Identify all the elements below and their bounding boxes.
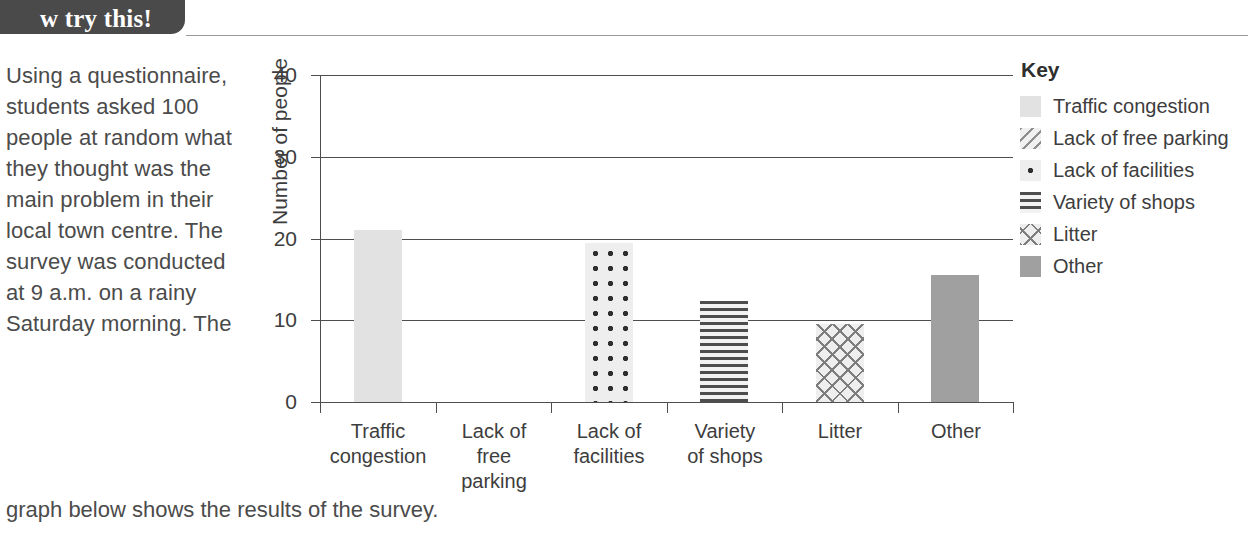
y-axis-tick: 0 bbox=[311, 402, 320, 403]
x-axis-category-label: Other bbox=[898, 419, 1014, 444]
gridline bbox=[320, 320, 1013, 321]
legend-item: Lack of facilities bbox=[1020, 154, 1248, 186]
bar bbox=[931, 275, 979, 402]
gridline bbox=[320, 239, 1013, 240]
x-axis-tick bbox=[898, 403, 899, 413]
legend-swatch-icon bbox=[1020, 128, 1041, 149]
y-axis-tick: 30 bbox=[311, 157, 320, 158]
x-axis-category-line: Traffic bbox=[320, 419, 436, 444]
x-axis-category-label: Lack offreeparking bbox=[436, 419, 552, 494]
legend-item-label: Variety of shops bbox=[1053, 191, 1195, 214]
legend-swatch-icon bbox=[1020, 192, 1041, 213]
x-axis-category-line: parking bbox=[436, 469, 552, 494]
legend-swatch-icon bbox=[1020, 224, 1041, 245]
x-axis-category-label: Trafficcongestion bbox=[320, 419, 436, 469]
y-axis-tick: 40 bbox=[311, 75, 320, 76]
x-axis-category-line: Variety bbox=[667, 419, 783, 444]
legend-item-label: Other bbox=[1053, 255, 1103, 278]
x-axis-category-line: Lack of bbox=[551, 419, 667, 444]
legend-swatch-icon bbox=[1020, 96, 1041, 117]
question-text-continued: graph below shows the results of the sur… bbox=[6, 494, 626, 525]
x-axis-category-line: free bbox=[436, 444, 552, 469]
legend: Key Traffic congestionLack of free parki… bbox=[1020, 58, 1248, 282]
legend-swatch-icon bbox=[1020, 256, 1041, 277]
legend-item-label: Traffic congestion bbox=[1053, 95, 1210, 118]
x-axis-category-line: of shops bbox=[667, 444, 783, 469]
legend-swatch-icon bbox=[1020, 160, 1041, 181]
legend-item: Traffic congestion bbox=[1020, 90, 1248, 122]
x-axis-category-line: facilities bbox=[551, 444, 667, 469]
y-axis-tick-label: 40 bbox=[274, 63, 297, 87]
bar bbox=[816, 324, 864, 402]
x-axis-category-line: Litter bbox=[782, 419, 898, 444]
x-axis-category-line: congestion bbox=[320, 444, 436, 469]
x-axis-tick bbox=[436, 403, 437, 413]
x-axis-tick bbox=[1013, 403, 1014, 413]
bar-chart: Number of people 010203040 Trafficconges… bbox=[240, 55, 1030, 475]
y-axis-tick-label: 30 bbox=[274, 145, 297, 169]
header-tab-label: w try this! bbox=[40, 4, 220, 34]
legend-item-label: Lack of free parking bbox=[1053, 127, 1229, 150]
question-text: Using a questionnaire, students asked 10… bbox=[6, 60, 238, 339]
legend-item-label: Litter bbox=[1053, 223, 1097, 246]
x-axis-tick bbox=[551, 403, 552, 413]
x-axis-category-label: Lack offacilities bbox=[551, 419, 667, 469]
bar bbox=[585, 243, 633, 402]
x-axis-category-label: Litter bbox=[782, 419, 898, 444]
x-axis-category-line: Lack of bbox=[436, 419, 552, 444]
legend-item: Lack of free parking bbox=[1020, 122, 1248, 154]
bar bbox=[354, 230, 402, 402]
x-axis-tick bbox=[320, 403, 321, 413]
y-axis-tick-label: 20 bbox=[274, 227, 297, 251]
x-axis-category-line: Other bbox=[898, 419, 1014, 444]
legend-item: Variety of shops bbox=[1020, 186, 1248, 218]
legend-item-label: Lack of facilities bbox=[1053, 159, 1194, 182]
x-axis-category-label: Varietyof shops bbox=[667, 419, 783, 469]
y-axis-tick: 20 bbox=[311, 239, 320, 240]
y-axis-tick-label: 0 bbox=[285, 390, 297, 414]
y-axis-tick: 10 bbox=[311, 320, 320, 321]
x-axis-tick bbox=[667, 403, 668, 413]
plot-area: Number of people 010203040 Trafficconges… bbox=[320, 75, 1013, 402]
page-header: w try this! bbox=[0, 0, 1248, 38]
y-axis-tick-label: 10 bbox=[274, 308, 297, 332]
gridline bbox=[320, 75, 1013, 76]
bar bbox=[700, 301, 748, 402]
gridline bbox=[320, 157, 1013, 158]
legend-title: Key bbox=[1021, 58, 1248, 82]
header-divider bbox=[186, 35, 1248, 36]
legend-items: Traffic congestionLack of free parkingLa… bbox=[1020, 90, 1248, 282]
legend-item: Other bbox=[1020, 250, 1248, 282]
legend-item: Litter bbox=[1020, 218, 1248, 250]
x-axis-tick bbox=[782, 403, 783, 413]
